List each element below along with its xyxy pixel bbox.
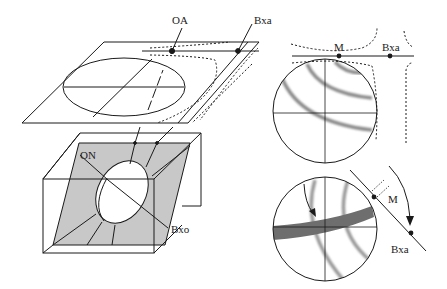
- plate-outline: [22, 42, 259, 123]
- oa-point: [169, 48, 174, 53]
- melatope-point-lower: [372, 195, 377, 200]
- label-m-lower: M: [388, 193, 398, 205]
- bxa-track-left: [178, 42, 248, 123]
- isogyre-dotted-1: [150, 42, 230, 48]
- biaxial-interference-diagram: OA Bxa ON Bxo: [0, 0, 447, 289]
- isogyre-dotted-2: [150, 55, 217, 123]
- bxa-leader: [238, 24, 252, 51]
- label-bxa-top: Bxa: [254, 14, 272, 26]
- isochrome-2: [307, 64, 372, 98]
- label-m-upper: M: [334, 41, 344, 53]
- bxa-point: [236, 49, 241, 54]
- figure-rotated: [272, 166, 426, 282]
- arrowhead-outer: [406, 216, 414, 226]
- bxa-point-upper: [388, 54, 393, 59]
- rotation-arrow-outer: [389, 166, 410, 218]
- label-bxa-lower: Bxa: [391, 243, 409, 255]
- isogyre-band: [272, 206, 374, 240]
- label-on: ON: [80, 149, 96, 161]
- label-bxo: Bxo: [171, 223, 190, 235]
- label-oa: OA: [172, 14, 188, 26]
- plate-axis-diagonal-2: [148, 70, 163, 110]
- indicatrix-box: [43, 133, 201, 253]
- melatope-point-upper: [337, 54, 342, 59]
- plate-markers: [169, 24, 252, 54]
- label-bxa-upper: Bxa: [382, 41, 400, 53]
- crystal-plate: [22, 42, 259, 123]
- plate-box-connectors: [135, 127, 173, 143]
- plate-axis-diagonal: [93, 59, 152, 117]
- isogyre-dotted-3: [200, 48, 258, 120]
- bxa-point-lower: [409, 231, 414, 236]
- oa-leader: [172, 28, 182, 51]
